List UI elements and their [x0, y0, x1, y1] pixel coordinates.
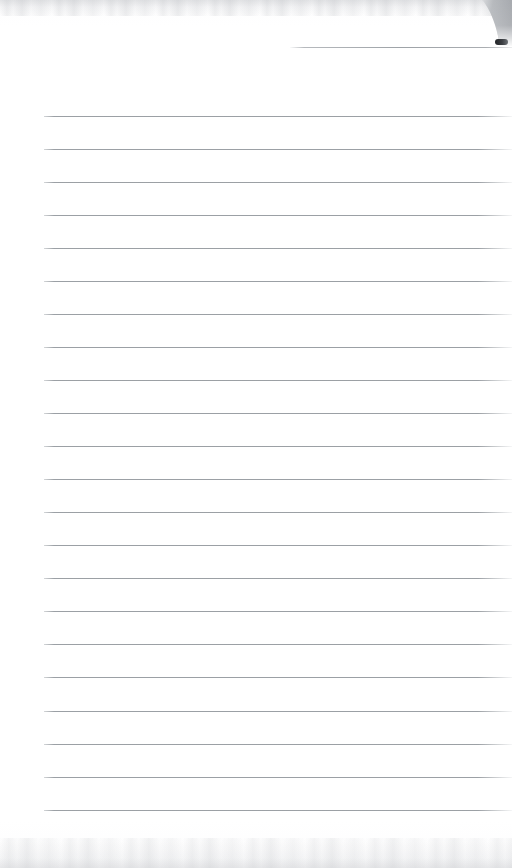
ruled-line — [44, 744, 512, 745]
ruled-line — [44, 314, 512, 315]
ruled-line — [44, 611, 512, 612]
ruled-line — [44, 380, 512, 381]
ruled-line — [44, 810, 512, 811]
ruled-line — [44, 512, 512, 513]
notepad-page-scan — [0, 0, 512, 868]
ruled-line — [44, 711, 512, 712]
ruled-line — [44, 644, 512, 645]
ruled-line — [44, 149, 512, 150]
ruled-line — [44, 182, 512, 183]
ruled-line — [44, 215, 512, 216]
ruled-line — [44, 347, 512, 348]
ruled-line — [44, 116, 512, 117]
header-rule-line — [290, 47, 512, 48]
ruled-line — [44, 413, 512, 414]
ruled-line — [44, 777, 512, 778]
ruled-line — [44, 545, 512, 546]
ruled-line — [44, 677, 512, 678]
ruled-line — [44, 479, 512, 480]
ruled-line — [44, 281, 512, 282]
paper-surface — [0, 0, 512, 868]
ruled-line — [44, 578, 512, 579]
ruled-line — [44, 446, 512, 447]
ruled-line — [44, 248, 512, 249]
